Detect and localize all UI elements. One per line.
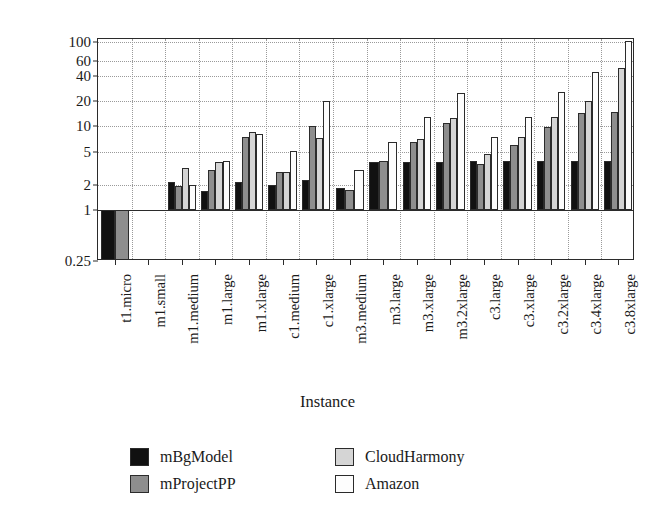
bar [443, 123, 450, 210]
legend-label: mProjectPP [160, 475, 236, 493]
legend-entry: mProjectPP [130, 475, 335, 493]
x-tick-mark [417, 259, 418, 265]
vertical-gridline [367, 39, 368, 259]
horizontal-gridline [98, 76, 633, 77]
bar [558, 92, 565, 211]
bar [484, 154, 491, 210]
bar [424, 117, 431, 211]
x-tick-mark [518, 259, 519, 265]
bar [388, 142, 397, 210]
x-tick-label: c3.2xlarge [556, 274, 571, 335]
bar [585, 101, 592, 210]
x-tick-label: m1.small [153, 274, 168, 328]
y-tick-label: 0.25 [65, 254, 91, 269]
bar [168, 182, 175, 211]
bar [618, 68, 625, 211]
y-tick-mark [93, 42, 98, 43]
x-tick-label: m3.medium [354, 274, 369, 344]
y-tick-mark [93, 75, 98, 76]
bar [249, 132, 256, 210]
legend-label: Amazon [365, 475, 419, 493]
legend-entry: Amazon [335, 475, 530, 493]
x-tick-label: c3.8xlarge [623, 274, 638, 335]
x-tick-label: c3.large [488, 274, 503, 320]
bar [417, 139, 424, 210]
bar [436, 162, 443, 211]
y-tick-label: 100 [69, 35, 92, 50]
x-tick-label: m3.2xlarge [455, 274, 470, 339]
bar [470, 161, 477, 211]
vertical-gridline [568, 39, 569, 259]
bar [379, 161, 388, 211]
bar [215, 162, 222, 211]
y-tick-label: 1 [84, 203, 92, 218]
bar [403, 162, 410, 211]
x-tick-label: m3.large [388, 274, 403, 325]
bar [268, 185, 275, 210]
legend-label: mBgModel [160, 448, 233, 466]
x-tick-mark [283, 259, 284, 265]
bar [457, 93, 464, 210]
legend-swatch-icon [335, 475, 354, 493]
horizontal-gridline [98, 42, 633, 43]
bar [115, 210, 129, 259]
vertical-gridline [501, 39, 502, 259]
bar [537, 161, 544, 211]
vertical-gridline [266, 39, 267, 259]
bar [182, 168, 189, 210]
x-tick-label: c1.medium [287, 274, 302, 339]
baseline-at-one [98, 210, 633, 211]
y-tick-mark [93, 210, 98, 211]
bar [518, 137, 525, 210]
bar [290, 151, 297, 210]
vertical-gridline [232, 39, 233, 259]
x-tick-mark [316, 259, 317, 265]
x-tick-label: c1.xlarge [321, 274, 336, 327]
y-tick-label: 2 [84, 178, 92, 193]
vertical-gridline [534, 39, 535, 259]
bar [235, 182, 242, 211]
x-tick-label: m3.xlarge [421, 274, 436, 332]
legend-entry: mBgModel [130, 448, 335, 466]
vertical-gridline [467, 39, 468, 259]
chart-figure: Relative performance 100604020105210.25 … [0, 0, 655, 506]
bar [316, 138, 323, 210]
x-tick-label: c3.xlarge [522, 274, 537, 327]
bar [491, 137, 498, 210]
bar [354, 170, 363, 210]
bar [309, 126, 316, 211]
bar [604, 161, 611, 211]
bar [369, 162, 378, 211]
bar [283, 172, 290, 211]
bar [208, 170, 215, 210]
bar [477, 164, 484, 211]
x-tick-label: c3.4xlarge [589, 274, 604, 335]
vertical-gridline [299, 39, 300, 259]
x-tick-mark [551, 259, 552, 265]
x-tick-mark [148, 259, 149, 265]
x-tick-mark [450, 259, 451, 265]
y-tick-label: 20 [76, 94, 91, 109]
plot-inner [98, 39, 633, 259]
bar [323, 101, 330, 210]
x-tick-label: t1.micro [119, 274, 134, 323]
x-tick-mark [618, 259, 619, 265]
x-axis-label: Instance [0, 392, 655, 412]
chart-legend: mBgModelCloudHarmonymProjectPPAmazon [130, 443, 530, 497]
legend-swatch-icon [130, 448, 149, 466]
bar [336, 188, 345, 210]
y-tick-mark [93, 101, 98, 102]
bar [101, 210, 115, 259]
bar [510, 145, 517, 210]
bar [544, 127, 551, 210]
bar [571, 161, 578, 211]
x-tick-mark [350, 259, 351, 265]
y-tick-mark [93, 185, 98, 186]
bar [592, 72, 599, 211]
x-tick-label: m1.xlarge [254, 274, 269, 332]
bar [503, 161, 510, 211]
horizontal-gridline [98, 101, 633, 102]
legend-swatch-icon [335, 448, 354, 466]
bar [450, 118, 457, 210]
vertical-gridline [199, 39, 200, 259]
